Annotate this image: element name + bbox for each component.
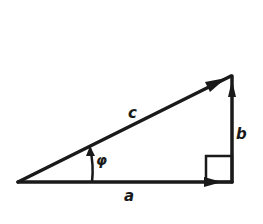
label-c: c bbox=[128, 104, 137, 122]
label-b: b bbox=[236, 125, 247, 143]
vector-c bbox=[18, 76, 231, 182]
vector-a bbox=[18, 177, 232, 187]
right-angle-marker bbox=[206, 156, 232, 182]
label-a: a bbox=[124, 187, 134, 205]
arrowhead-c-icon bbox=[205, 78, 226, 92]
angle-phi-arc bbox=[86, 146, 95, 182]
arrowhead-b-icon bbox=[228, 80, 236, 97]
label-phi: φ bbox=[96, 152, 107, 168]
right-triangle-diagram: c a b φ bbox=[0, 0, 263, 224]
